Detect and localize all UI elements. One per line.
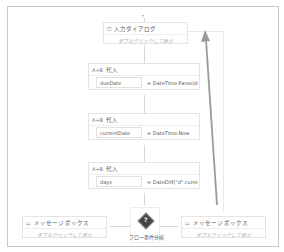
- loop-back-arrow-icon: [0, 0, 284, 252]
